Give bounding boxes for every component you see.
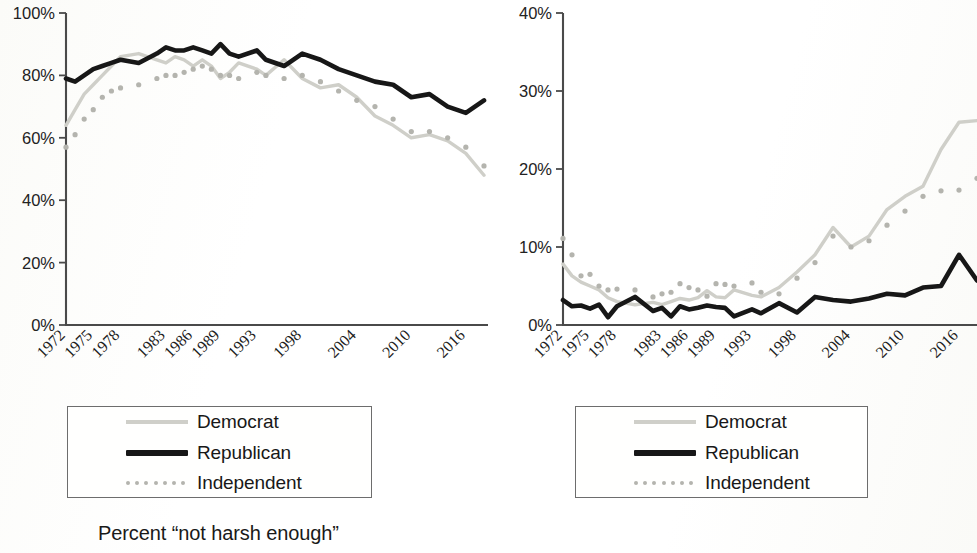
x-axis-tick-label: 2016	[433, 326, 468, 361]
legend-item-democrat: Democrat	[68, 407, 371, 438]
legend-item-democrat: Democrat	[576, 407, 867, 438]
x-axis-tick-label: 2010	[872, 326, 907, 361]
x-axis-tick-label: 1978	[88, 326, 123, 361]
x-axis-tick-label: 1975	[61, 326, 96, 361]
legend-label-republican: Republican	[705, 442, 799, 464]
x-axis-tick-label: 1986	[656, 326, 691, 361]
x-axis-tick-label: 1983	[629, 326, 664, 361]
series-republican	[563, 255, 977, 317]
legend-not-harsh-enough: Democrat Republican Independent	[67, 406, 372, 498]
independent-dotted-swatch-icon	[634, 476, 696, 490]
x-axis-tick-label: 1986	[161, 326, 196, 361]
series-democrat	[563, 121, 977, 305]
y-axis-tick-label: 20%	[22, 254, 55, 272]
x-axis-tick-label: 2004	[818, 326, 853, 361]
series-independent	[63, 63, 486, 168]
legend-label-democrat: Democrat	[705, 411, 787, 433]
x-axis-tick-label: 1993	[719, 326, 754, 361]
y-axis-tick-label: 40%	[519, 4, 552, 22]
x-axis-tick-label: 1978	[584, 326, 619, 361]
chart-panel-too-harsh: 0%10%20%30%40%19721975197819831986198919…	[489, 0, 977, 553]
democrat-line-swatch-icon	[126, 415, 188, 429]
legend-label-democrat: Democrat	[197, 411, 279, 433]
legend-item-independent: Independent	[576, 468, 867, 499]
y-axis-tick-label: 60%	[22, 129, 55, 147]
line-chart-too-harsh: 0%10%20%30%40%19721975197819831986198919…	[489, 0, 977, 400]
x-axis-tick-label: 1975	[557, 326, 592, 361]
y-axis-tick-label: 10%	[519, 238, 552, 256]
x-axis-tick-label: 1989	[188, 326, 223, 361]
republican-line-swatch-icon	[126, 446, 188, 460]
legend-label-independent: Independent	[705, 472, 810, 494]
x-axis-tick-label: 1983	[133, 326, 168, 361]
chart-panel-not-harsh-enough: 0%20%40%60%80%100%1972197519781983198619…	[0, 0, 488, 553]
legend-too-harsh: Democrat Republican Independent	[575, 406, 868, 498]
legend-item-independent: Independent	[68, 468, 371, 499]
legend-label-independent: Independent	[197, 472, 302, 494]
legend-item-republican: Republican	[576, 438, 867, 469]
series-democrat	[66, 54, 484, 176]
x-axis-tick-label: 2004	[324, 326, 359, 361]
legend-label-republican: Republican	[197, 442, 291, 464]
x-axis-tick-label: 2010	[379, 326, 414, 361]
democrat-line-swatch-icon	[634, 415, 696, 429]
independent-dotted-swatch-icon	[126, 476, 188, 490]
x-axis-tick-label: 1989	[683, 326, 718, 361]
caption-not-harsh-enough: Percent “not harsh enough”	[98, 522, 339, 545]
series-independent	[560, 176, 977, 300]
y-axis-tick-label: 20%	[519, 160, 552, 178]
legend-item-republican: Republican	[68, 438, 371, 469]
x-axis-tick-label: 1998	[764, 326, 799, 361]
y-axis-tick-label: 100%	[13, 4, 56, 22]
x-axis-tick-label: 1998	[270, 326, 305, 361]
x-axis-tick-label: 2016	[926, 326, 961, 361]
y-axis-tick-label: 40%	[22, 191, 55, 209]
x-axis-tick-label: 1993	[224, 326, 259, 361]
y-axis-tick-label: 30%	[519, 82, 552, 100]
y-axis-tick-label: 80%	[22, 66, 55, 84]
republican-line-swatch-icon	[634, 446, 696, 460]
line-chart-not-harsh-enough: 0%20%40%60%80%100%1972197519781983198619…	[0, 0, 488, 400]
